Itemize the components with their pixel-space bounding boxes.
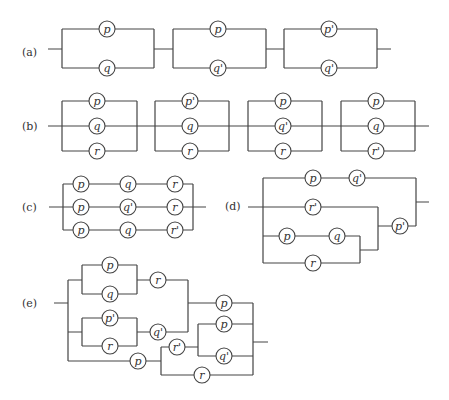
svg-text:p': p' xyxy=(105,312,115,325)
svg-text:q: q xyxy=(372,120,379,133)
svg-text:p: p xyxy=(106,259,113,272)
switch: q xyxy=(120,222,136,238)
switch: q xyxy=(89,118,105,134)
svg-text:q': q' xyxy=(278,120,288,133)
svg-text:r: r xyxy=(107,340,113,353)
svg-text:p': p' xyxy=(185,95,195,108)
part-label-c: (c) xyxy=(22,201,37,214)
svg-text:q': q' xyxy=(352,172,362,185)
svg-text:q': q' xyxy=(153,326,163,339)
svg-text:q': q' xyxy=(324,62,334,75)
svg-text:p: p xyxy=(77,224,84,237)
svg-text:r: r xyxy=(187,145,193,158)
switch: p xyxy=(216,295,232,311)
switch: q xyxy=(102,286,118,302)
switch: p xyxy=(210,21,226,37)
switch: q' xyxy=(349,170,365,186)
switch: p xyxy=(99,21,115,37)
switch: r xyxy=(167,199,183,215)
switch: r' xyxy=(167,222,183,238)
svg-text:q': q' xyxy=(123,201,133,214)
switch: r' xyxy=(169,339,185,355)
svg-text:q: q xyxy=(124,224,131,237)
switch: q xyxy=(182,118,198,134)
switch: r xyxy=(182,143,198,159)
svg-text:p: p xyxy=(279,95,286,108)
svg-text:p: p xyxy=(309,172,316,185)
svg-text:r: r xyxy=(172,201,178,214)
switch: r xyxy=(194,367,210,383)
svg-text:p': p' xyxy=(324,23,334,36)
svg-text:q: q xyxy=(103,62,110,75)
svg-text:p: p xyxy=(77,178,84,191)
svg-text:q: q xyxy=(93,120,100,133)
switch: q xyxy=(99,60,115,76)
circuit-c: (c) p q r p q' r p q r' xyxy=(22,176,206,238)
switch: q' xyxy=(150,324,166,340)
switch: p xyxy=(305,170,321,186)
switch: p' xyxy=(102,310,118,326)
svg-text:p: p xyxy=(372,95,379,108)
svg-text:q': q' xyxy=(213,62,223,75)
svg-text:p: p xyxy=(214,23,221,36)
svg-text:r': r' xyxy=(372,145,380,158)
switch: r' xyxy=(368,143,384,159)
switch: r xyxy=(167,176,183,192)
circuit-b: (b) p q r p' q r p q' r p q r' xyxy=(22,93,429,159)
circuit-diagram: (a) p q p q' p' q' (b) p q r p' q r p q'… xyxy=(0,0,449,400)
switch: q' xyxy=(321,60,337,76)
svg-text:q: q xyxy=(186,120,193,133)
svg-text:r: r xyxy=(199,369,205,382)
svg-text:q': q' xyxy=(219,350,229,363)
switch: q xyxy=(368,118,384,134)
switch: q' xyxy=(216,348,232,364)
switch: p xyxy=(216,316,232,332)
svg-text:p: p xyxy=(93,95,100,108)
svg-text:p': p' xyxy=(395,220,405,233)
switch: p xyxy=(275,93,291,109)
switch: r xyxy=(102,338,118,354)
switch: r xyxy=(305,255,321,271)
part-label-a: (a) xyxy=(22,46,37,59)
switch: r xyxy=(275,143,291,159)
circuit-d: (d) p q' r' p' p q r xyxy=(225,170,429,271)
svg-text:r': r' xyxy=(171,224,179,237)
switch: r' xyxy=(305,199,321,215)
switch: p xyxy=(102,257,118,273)
svg-text:q: q xyxy=(124,178,131,191)
switch: p' xyxy=(182,93,198,109)
part-label-b: (b) xyxy=(22,120,38,133)
svg-text:r: r xyxy=(310,257,316,270)
svg-text:p: p xyxy=(220,297,227,310)
svg-text:p: p xyxy=(220,318,227,331)
part-label-d: (d) xyxy=(225,200,241,213)
switch: q' xyxy=(210,60,226,76)
svg-text:p: p xyxy=(77,201,84,214)
switch: q' xyxy=(275,118,291,134)
switch: p xyxy=(279,228,295,244)
circuit-a: (a) p q p q' p' q' xyxy=(22,21,391,76)
part-label-e: (e) xyxy=(22,297,37,310)
switch: p xyxy=(73,199,89,215)
switch: q xyxy=(329,228,345,244)
switch: q xyxy=(120,176,136,192)
svg-text:r': r' xyxy=(309,201,317,214)
switch: p xyxy=(89,93,105,109)
switch: p' xyxy=(321,21,337,37)
switch: r xyxy=(150,272,166,288)
switch: p xyxy=(73,222,89,238)
switch: r xyxy=(89,143,105,159)
svg-text:r: r xyxy=(94,145,100,158)
svg-text:r: r xyxy=(155,274,161,287)
svg-text:p: p xyxy=(134,355,141,368)
switch: p' xyxy=(392,218,408,234)
svg-text:r: r xyxy=(172,178,178,191)
svg-text:q: q xyxy=(333,230,340,243)
svg-text:p: p xyxy=(283,230,290,243)
switch: p xyxy=(368,93,384,109)
svg-text:p: p xyxy=(103,23,110,36)
switch: p xyxy=(130,353,146,369)
switch: p xyxy=(73,176,89,192)
svg-text:q: q xyxy=(106,288,113,301)
circuit-e: (e) p q r p' r q' p p r' p q' r xyxy=(22,257,268,383)
